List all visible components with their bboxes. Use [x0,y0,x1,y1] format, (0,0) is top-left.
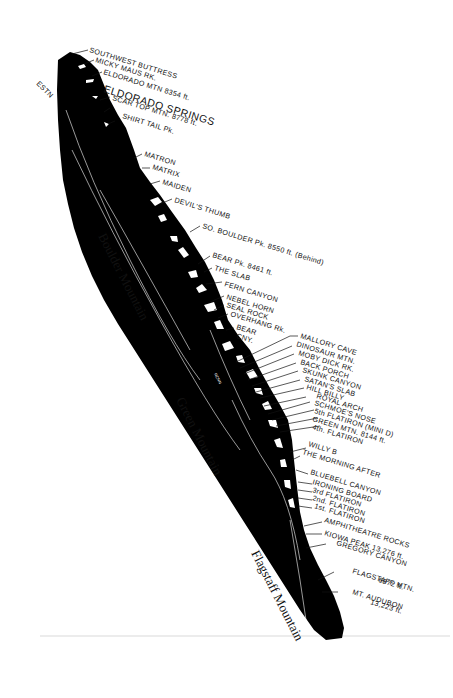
label-flagstaff-elev: 6872 ft. [377,575,405,591]
label-devils-thumb: DEVIL'S THUMB [173,195,231,221]
ridge-map: RCNN ESTN [0,0,453,698]
label-maiden: MAIDEN [161,177,192,194]
compass-label: ESTN [35,79,56,100]
